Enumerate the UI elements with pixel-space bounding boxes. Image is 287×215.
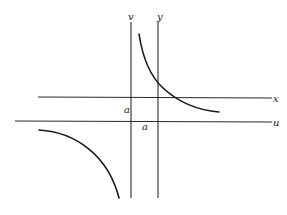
u-axis-label: u: [273, 117, 279, 128]
offset-a-horizontal-label: a: [142, 121, 148, 132]
lower-left-branch: [39, 130, 119, 198]
y-axis-label: y: [156, 11, 163, 22]
hyperbola-diagram: v y x u a a: [0, 0, 287, 215]
x-axis-label: x: [273, 93, 279, 104]
v-axis-label: v: [128, 11, 134, 22]
x-axis: [38, 97, 272, 98]
offset-a-vertical-label: a: [124, 104, 130, 115]
upper-right-branch: [139, 34, 219, 112]
